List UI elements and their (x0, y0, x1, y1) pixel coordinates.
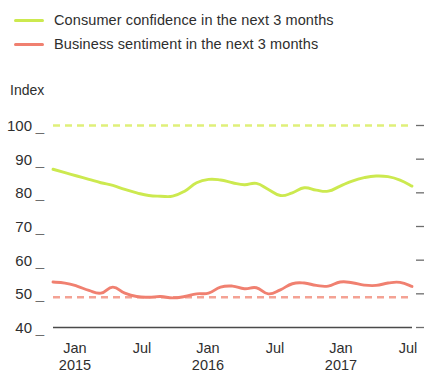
series-line-business-sentiment (53, 282, 412, 298)
reference-lines (53, 126, 412, 298)
right-tick-marks (416, 126, 424, 328)
series-line-consumer-confidence (53, 169, 412, 196)
plot-area (0, 0, 433, 378)
series-lines (53, 169, 412, 298)
consumer-business-sentiment-chart: Consumer confidence in the next 3 months… (0, 0, 433, 378)
